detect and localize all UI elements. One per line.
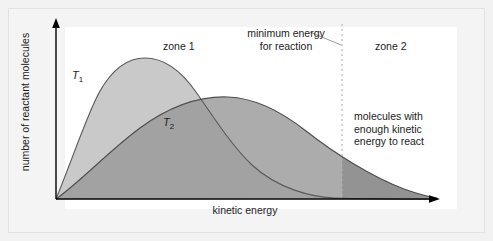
x-axis-arrowhead: [429, 195, 440, 203]
x-axis-label: kinetic energy: [180, 204, 310, 216]
y-axis-arrowhead: [52, 18, 60, 28]
t1-subscript: 1: [79, 75, 83, 84]
t2-letter: T: [163, 116, 170, 128]
t2-subscript: 2: [170, 122, 174, 131]
zone2-label: zone 2: [375, 40, 407, 53]
y-axis-label: number of reactant molecules: [19, 32, 31, 172]
minimum-energy-label: minimum energy for reaction: [240, 27, 332, 52]
t1-curve-label: T1: [72, 69, 83, 87]
zone1-label: zone 1: [163, 40, 195, 53]
t2-curve-label: T2: [163, 116, 174, 134]
chart-figure: number of reactant molecules kinetic ene…: [0, 0, 493, 241]
reactive-molecules-note: molecules with enough kinetic energy to …: [354, 110, 450, 148]
t1-letter: T: [72, 69, 79, 81]
